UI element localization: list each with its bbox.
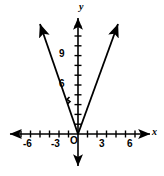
- x-tick-label-6: 6: [127, 138, 133, 149]
- origin-label: O: [70, 135, 78, 146]
- y-tick-label-9: 9: [59, 48, 65, 59]
- y-axis-label: y: [79, 1, 83, 12]
- curve-right-branch: [78, 24, 118, 134]
- y-tick-label-6: 6: [59, 78, 65, 89]
- coordinate-plane-plot: [0, 0, 164, 176]
- x-axis-label: x: [152, 126, 157, 137]
- x-tick-label-minus3: -3: [51, 138, 60, 149]
- x-tick-label-3: 3: [99, 138, 105, 149]
- break-mark-icon: [67, 97, 70, 104]
- x-tick-label-minus6: -6: [23, 138, 32, 149]
- absolute-value-graph-figure: y x O 9 6 -6 -3 3 6: [0, 0, 164, 176]
